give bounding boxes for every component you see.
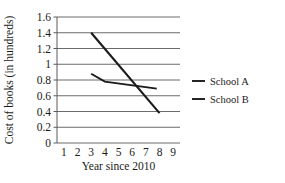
chart-legend: School ASchool B (192, 76, 249, 105)
x-tick-label: 8 (157, 146, 163, 158)
x-tick-labels: 123456789 (61, 146, 176, 158)
y-tick-label: 1.6 (37, 11, 52, 23)
y-tick-label: 0.8 (37, 74, 52, 86)
y-tick-label: 0.2 (37, 121, 52, 133)
legend-label-school-b: School B (210, 94, 249, 105)
y-tick-label: 1.2 (37, 43, 52, 55)
y-tick-labels: 00.20.40.60.811.21.41.6 (37, 11, 52, 149)
y-tick-label: 0.4 (37, 106, 52, 118)
x-tick-label: 5 (116, 146, 122, 158)
x-tick-label: 3 (88, 146, 94, 158)
x-tick-label: 2 (75, 146, 81, 158)
legend-label-school-a: School A (210, 76, 249, 87)
y-tick-label: 1.4 (37, 27, 52, 39)
x-tick-label: 6 (129, 146, 135, 158)
x-tick-label: 1 (61, 146, 67, 158)
y-tick-marks (54, 17, 58, 143)
x-axis-title: Year since 2010 (82, 160, 156, 172)
line-chart: 00.20.40.60.811.21.41.6 123456789 Year s… (0, 0, 285, 183)
y-tick-label: 0 (45, 137, 51, 149)
chart-canvas: 00.20.40.60.811.21.41.6 123456789 Year s… (0, 0, 285, 183)
y-tick-label: 0.6 (37, 90, 52, 102)
x-tick-label: 7 (143, 146, 149, 158)
y-tick-label: 1 (45, 58, 51, 70)
x-tick-label: 4 (102, 146, 108, 158)
x-tick-label: 9 (170, 146, 176, 158)
y-axis-title: Cost of books (in hundreds) (3, 16, 16, 145)
